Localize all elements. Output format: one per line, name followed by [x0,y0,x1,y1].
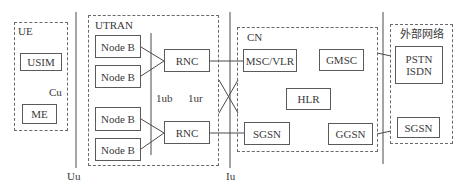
uu-interface-label: Uu [67,170,80,182]
nodeb-2: Node B [95,65,141,88]
nodeb-3: Node B [95,107,141,131]
hlr-node: HLR [286,88,331,110]
ggsn-node: GGSN [328,123,373,145]
rnc-2: RNC [164,121,210,144]
isdn-label: ISDN [406,65,432,77]
ue-label: UE [18,25,33,37]
external-network-label: 外部网络 [400,28,444,40]
rnc-1: RNC [164,49,210,72]
me-node: ME [22,104,57,124]
sgsn-node: SGSN [244,122,290,145]
nodeb-1: Node B [95,35,141,58]
pstn-label: PSTN [406,53,433,65]
utran-label: UTRAN [95,19,133,31]
iu-interface-label: Iu [226,170,235,182]
cu-interface-label: Cu [49,86,62,98]
iur-interface-label: 1ur [188,92,203,104]
cn-label: CN [247,31,262,43]
link-gmsc-pstn [377,53,391,56]
link-ggsn-ext [377,131,391,134]
pstn-isdn-node: PSTN ISDN [395,46,443,84]
usim-node: USIM [20,53,62,71]
umts-architecture-diagram: UE USIM Cu ME Uu UTRAN Node B Node B Nod… [0,0,464,187]
msc-vlr-node: MSC/VLR [243,49,297,72]
nodeb-4: Node B [95,138,141,161]
gmsc-node: GMSC [319,49,364,71]
external-sgsn-node: SGSN [397,117,440,138]
iub-interface-label: 1ub [156,92,173,104]
